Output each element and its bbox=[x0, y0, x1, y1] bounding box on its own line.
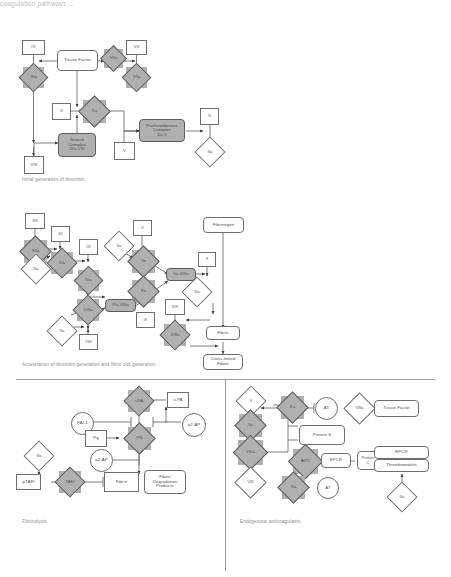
node-viii-label: VIII bbox=[239, 471, 262, 494]
node-ixa-label: IXa bbox=[23, 67, 44, 88]
node-iia-3-label: IIa bbox=[51, 320, 73, 342]
panel-fibrinolysis: t-PA u-PA PAI-1 α2-AP Pg PN α2-AP IIa pT… bbox=[0, 382, 226, 577]
node-iia: IIa bbox=[28, 445, 50, 467]
node-xa-1-label: Xa bbox=[281, 396, 304, 419]
node-xia-label: XIa bbox=[51, 252, 73, 274]
node-x: X bbox=[136, 312, 155, 328]
node-pg: Pg bbox=[85, 430, 107, 447]
node-ix: IX bbox=[22, 40, 45, 55]
node-viii: VIII bbox=[239, 471, 262, 494]
node-tenase-complex: Tenase Complex IXa-VIII bbox=[58, 133, 96, 157]
node-epcr-1: EPCR bbox=[321, 453, 351, 468]
node-u-pa: u-PA bbox=[167, 392, 189, 408]
node-a2-ap-1: α2-AP bbox=[182, 413, 206, 437]
node-v: V bbox=[240, 390, 262, 412]
node-xa-va: Xa-VIIIa bbox=[166, 268, 196, 281]
node-ixa-viiia: IXa-VIIIa bbox=[105, 299, 136, 312]
node-viia-2-label: VIIa bbox=[126, 67, 147, 88]
node-tafi: TAFI bbox=[59, 471, 81, 493]
node-ptafi: pTAFI bbox=[16, 474, 41, 490]
node-v: V bbox=[133, 220, 152, 236]
node-a2-ap-2: α2-AP bbox=[90, 449, 113, 472]
panel4-caption: Endogenous anticoagulants. bbox=[240, 519, 302, 524]
node-xi: XI bbox=[51, 226, 70, 242]
node-xa-label: Xa bbox=[83, 100, 106, 123]
node-at-2: AT bbox=[317, 477, 339, 499]
node-pn-label: PN bbox=[128, 427, 151, 450]
coagulation-cascade-figure: coagulation pathways ... bbox=[0, 0, 451, 577]
node-ix: IX bbox=[79, 239, 98, 255]
node-viia: VIIa bbox=[104, 49, 123, 68]
node-iia-4: IIa bbox=[186, 281, 208, 303]
node-tissue-factor: Tissue Factor bbox=[57, 50, 98, 71]
node-apc: APC bbox=[293, 449, 318, 474]
node-v-label: V bbox=[240, 390, 262, 412]
node-prothrombinase-complex: Prothrombinase Complex Xa-V bbox=[139, 119, 185, 142]
node-epcr-2: EPCR bbox=[374, 446, 429, 459]
node-viia: VIIa bbox=[348, 397, 371, 420]
node-viii: VIII bbox=[24, 156, 44, 174]
node-xa: Xa bbox=[132, 280, 155, 303]
node-iia-4-label: IIa bbox=[186, 281, 208, 303]
node-ixa: IXa bbox=[23, 67, 44, 88]
node-xa-2-label: Xa bbox=[282, 476, 305, 499]
node-iia-2-label: IIa bbox=[108, 235, 130, 257]
node-va-label: Va bbox=[132, 250, 155, 273]
node-iia: IIa bbox=[391, 486, 413, 508]
panel2-caption: Acceleration of thrombin generation and … bbox=[22, 362, 157, 367]
node-iia-label: IIa bbox=[28, 445, 50, 467]
node-iia-3: IIa bbox=[51, 320, 73, 342]
node-xa: Xa bbox=[83, 100, 106, 123]
node-ii: II bbox=[198, 252, 216, 267]
node-fibrin: Fibrin bbox=[104, 472, 139, 492]
node-vii: VII bbox=[126, 40, 147, 55]
node-va: Va bbox=[239, 414, 262, 437]
node-viiia-label: VIIIa bbox=[77, 299, 99, 321]
panel1-connectors bbox=[0, 14, 451, 184]
node-xa-2: Xa bbox=[282, 476, 305, 499]
node-xa-label: Xa bbox=[132, 280, 155, 303]
node-viia-2: VIIa bbox=[126, 67, 147, 88]
node-apc-label: APC bbox=[293, 449, 318, 474]
panel-acceleration-of-thrombin-generation: XII XI IX V Fibrinogen XIIa XIa IXa VIII… bbox=[0, 196, 451, 376]
node-ii: II bbox=[200, 108, 219, 125]
panel3-caption: Fibrinolysis. bbox=[22, 519, 48, 524]
node-iia-2: IIa bbox=[108, 235, 130, 257]
node-protein-s: Protein S bbox=[299, 425, 345, 445]
node-t-pa: t-PA bbox=[128, 390, 150, 412]
node-xiiia: XIIIa bbox=[164, 324, 186, 346]
panel-endogenous-anticoagulants: V Va VIIIa VIII Xa AT VIIa Tissue Factor… bbox=[226, 382, 451, 577]
node-cross-linked-fibrin: Cross-linked Fibrin bbox=[203, 354, 243, 370]
node-tissue-factor: Tissue Factor bbox=[374, 400, 419, 417]
panel-initial-generation-of-thrombin: IX Tissue Factor VIIa VII IXa VIIa X Xa … bbox=[0, 14, 451, 184]
node-v: V bbox=[114, 142, 135, 160]
node-tafi-label: TAFI bbox=[59, 471, 81, 493]
node-pn: PN bbox=[128, 427, 151, 450]
node-viiia: VIIIa bbox=[238, 440, 263, 465]
node-xia: XIa bbox=[51, 252, 73, 274]
node-xa-1: Xa bbox=[281, 396, 304, 419]
node-viiia-label: VIIIa bbox=[238, 440, 263, 465]
node-t-pa-label: t-PA bbox=[128, 390, 150, 412]
node-iia-1-label: IIa bbox=[25, 258, 47, 280]
node-x: X bbox=[52, 103, 71, 120]
node-ixa: IXa bbox=[78, 270, 99, 291]
node-fibrin-degradation-products: Fibrin Degradation Products bbox=[144, 470, 186, 494]
node-iia-1: IIa bbox=[25, 258, 47, 280]
node-va: Va bbox=[132, 250, 155, 273]
node-fibrinogen: Fibrinogen bbox=[203, 217, 244, 233]
node-viiia: VIIIa bbox=[77, 299, 99, 321]
node-viii: VIII bbox=[79, 334, 98, 350]
node-xiii: XIII bbox=[165, 299, 185, 315]
node-viia-label: VIIa bbox=[104, 49, 123, 68]
node-iia: IIa bbox=[199, 141, 221, 163]
node-va-label: Va bbox=[239, 414, 262, 437]
node-ixa-label: IXa bbox=[78, 270, 99, 291]
node-xii: XII bbox=[25, 213, 45, 229]
node-xiiia-label: XIIIa bbox=[164, 324, 186, 346]
node-iia-label: IIa bbox=[199, 141, 221, 163]
node-viia-label: VIIa bbox=[348, 397, 371, 420]
top-cut-text: coagulation pathways ... bbox=[0, 0, 451, 11]
node-fibrin: Fibrin bbox=[206, 326, 240, 340]
panel1-caption: Initial generation of thrombin. bbox=[22, 177, 86, 182]
